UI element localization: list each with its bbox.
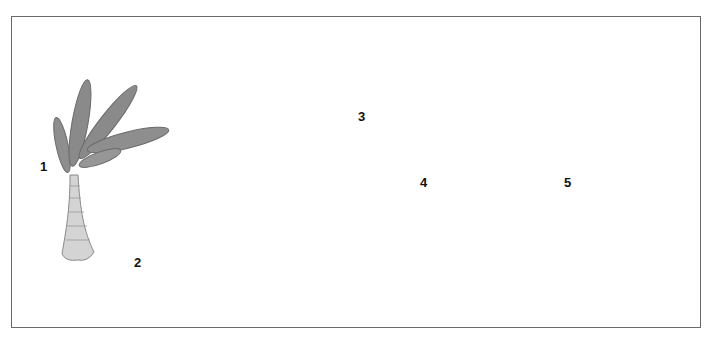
specimen-label-1: 1 [40,160,47,173]
specimen-label-4: 4 [420,176,427,189]
fern-frond-illustration [50,78,170,260]
specimen-illustrations [0,0,719,344]
specimen-label-2: 2 [134,256,141,269]
specimen-label-3: 3 [358,110,365,123]
specimen-label-5: 5 [564,176,571,189]
